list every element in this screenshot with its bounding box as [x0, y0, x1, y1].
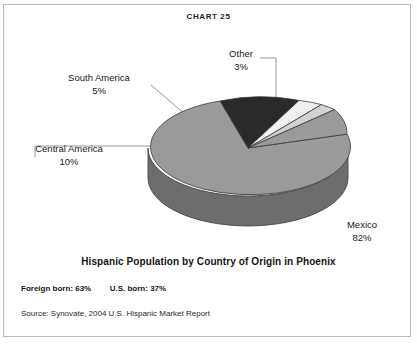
pie-label-south-america-name: South America [68, 72, 130, 83]
us-born-stat: U.S. born: 37% [110, 284, 166, 293]
pie-label-central-america-pct: 10% [8, 155, 130, 168]
pie-label-other: Other 3% [212, 47, 270, 73]
pie-label-mexico-pct: 82% [330, 231, 394, 244]
chart-page: CHART 25 [0, 0, 417, 345]
chart-number-heading: CHART 25 [0, 12, 417, 21]
foreign-born-stat: Foreign born: 63% [21, 284, 91, 293]
pie-chart-graphic [8, 26, 408, 246]
pie-label-central-america-name: Central America [35, 143, 103, 154]
pie-label-mexico-name: Mexico [347, 219, 377, 230]
pie-label-other-name: Other [229, 48, 253, 59]
source-note: Source: Synovate, 2004 U.S. Hispanic Mar… [21, 309, 210, 318]
pie-label-mexico: Mexico 82% [330, 218, 394, 244]
pie-label-central-america: Central America 10% [8, 142, 130, 168]
chart-title: Hispanic Population by Country of Origin… [0, 256, 417, 267]
pie-label-south-america: South America 5% [36, 71, 162, 97]
pie-label-other-pct: 3% [212, 60, 270, 73]
pie-label-south-america-pct: 5% [36, 84, 162, 97]
born-stats-line: Foreign born: 63% U.S. born: 37% [21, 284, 166, 293]
pie-chart-svg [8, 26, 408, 246]
